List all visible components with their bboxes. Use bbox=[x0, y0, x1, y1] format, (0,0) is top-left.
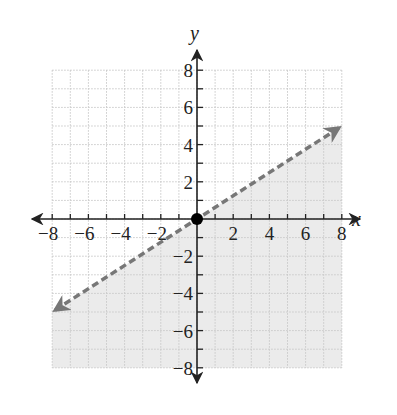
x-tick-label: 8 bbox=[337, 223, 347, 244]
y-tick-label: 4 bbox=[184, 135, 194, 156]
y-tick-label: −6 bbox=[173, 321, 193, 342]
x-tick-label: 6 bbox=[301, 223, 311, 244]
origin-point bbox=[191, 213, 203, 225]
closed-dot bbox=[191, 213, 203, 225]
x-tick-label: −8 bbox=[38, 223, 58, 244]
y-tick-label: −2 bbox=[173, 246, 193, 267]
y-tick-label: −8 bbox=[173, 358, 193, 379]
y-tick-label: 8 bbox=[184, 60, 194, 81]
x-tick-label: −4 bbox=[110, 223, 131, 244]
x-axis-label: x bbox=[351, 208, 361, 230]
x-tick-label: 2 bbox=[228, 223, 238, 244]
x-tick-label: −2 bbox=[147, 223, 167, 244]
x-tick-label: −6 bbox=[74, 223, 94, 244]
y-tick-label: −4 bbox=[173, 283, 194, 304]
y-tick-label: 2 bbox=[184, 172, 194, 193]
y-tick-label: 6 bbox=[184, 97, 194, 118]
coordinate-plane: −8−6−4−224688642−2−4−6−8 x y bbox=[0, 0, 397, 415]
y-axis-label: y bbox=[188, 22, 199, 45]
x-tick-label: 4 bbox=[265, 223, 275, 244]
